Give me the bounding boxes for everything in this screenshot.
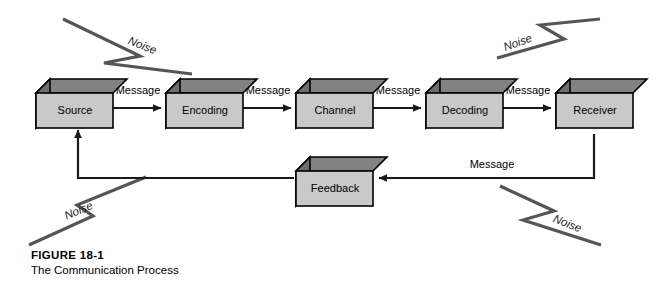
node-feedback-label: Feedback — [311, 182, 360, 194]
figure-caption-title: FIGURE 18-1 — [31, 249, 179, 263]
node-encoding-label: Encoding — [182, 104, 228, 116]
edge-channel-decoding-label: Message — [376, 84, 421, 96]
node-channel[interactable]: Channel — [296, 79, 387, 128]
figure-caption-subtitle: The Communication Process — [31, 264, 179, 278]
edge-decoding-receiver-label: Message — [506, 84, 551, 96]
communication-process-diagram: Noise Noise Noise Noise Message Message — [0, 0, 667, 284]
canvas-background — [0, 0, 667, 284]
figure-container: Noise Noise Noise Noise Message Message — [0, 0, 667, 284]
node-decoding-label: Decoding — [442, 104, 488, 116]
node-source[interactable]: Source — [36, 79, 127, 128]
node-decoding[interactable]: Decoding — [426, 79, 517, 128]
figure-caption: FIGURE 18-1 The Communication Process — [31, 249, 179, 277]
edge-encoding-channel-label: Message — [246, 84, 291, 96]
node-receiver[interactable]: Receiver — [556, 79, 647, 128]
node-feedback[interactable]: Feedback — [296, 157, 387, 206]
node-source-label: Source — [58, 104, 93, 116]
node-channel-label: Channel — [315, 104, 356, 116]
node-receiver-label: Receiver — [573, 104, 617, 116]
edge-source-encoding-label: Message — [116, 84, 161, 96]
node-encoding[interactable]: Encoding — [166, 79, 257, 128]
edge-receiver-feedback-label: Message — [470, 158, 515, 170]
